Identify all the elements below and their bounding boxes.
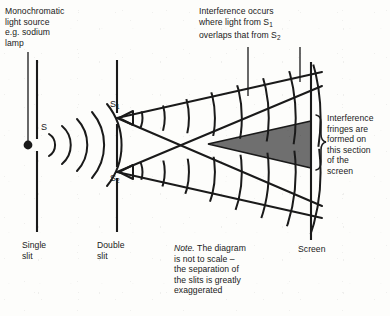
interference-caption-line-3: overlaps that from S2 xyxy=(199,30,281,43)
screen-caption: Screen xyxy=(298,244,326,255)
double-slit-caption-line-1: Double xyxy=(97,240,125,251)
interference-caption: Interference occurs where light from S1 … xyxy=(199,6,281,43)
fringe-caption-line-3: formed on xyxy=(327,134,373,145)
interference-caption-sub-1: 1 xyxy=(269,20,273,27)
single-slit-caption-line-1: Single xyxy=(22,240,46,251)
source-point-label: S xyxy=(41,122,47,133)
interference-caption-line-2: where light from S1 xyxy=(199,17,281,30)
source-caption: Monochromatic light source e.g. sodium l… xyxy=(5,6,64,48)
fringe-section-brace xyxy=(316,115,326,170)
note-caption-line-1-text: The diagram xyxy=(195,243,246,253)
point-source-dot xyxy=(24,141,33,150)
note-caption-line-3: the separation of xyxy=(174,264,246,275)
fringe-caption-line-5: of the xyxy=(327,155,373,166)
note-caption-line-1: Note. The diagram xyxy=(174,243,246,254)
source-caption-line-2: light source xyxy=(5,17,64,28)
double-slit-caption: Double slit xyxy=(97,240,125,261)
diagram-canvas: Monochromatic light source e.g. sodium l… xyxy=(0,0,390,316)
double-slit-caption-line-2: slit xyxy=(97,251,125,262)
slit-s2-label-sub: 2 xyxy=(116,177,120,184)
interference-caption-line-2-text: where light from S xyxy=(199,17,269,27)
single-slit-caption: Single slit xyxy=(22,240,46,261)
fringe-caption-line-1: Interference xyxy=(327,113,373,124)
note-caption-line-2: is not to scale – xyxy=(174,254,246,265)
source-caption-line-4: lamp xyxy=(5,38,64,49)
interference-caption-sub-2: 2 xyxy=(277,33,281,40)
fringe-caption-line-4: this section xyxy=(327,145,373,156)
note-caption-line-5: exaggerated xyxy=(174,285,246,296)
fringe-caption-line-2: fringes are xyxy=(327,124,373,135)
note-keyword: Note. xyxy=(174,243,195,253)
fringe-caption: Interference fringes are formed on this … xyxy=(327,113,373,177)
source-point-label-text: S xyxy=(41,122,47,132)
fringe-caption-line-6: screen xyxy=(327,166,373,177)
interference-caption-line-1: Interference occurs xyxy=(199,6,281,17)
interference-caption-line-3-text: overlaps that from S xyxy=(199,30,277,40)
source-caption-line-3: e.g. sodium xyxy=(5,27,64,38)
slit-s2-label: S2 xyxy=(110,173,120,186)
note-caption-line-4: the slits is greatly xyxy=(174,275,246,286)
single-slit-caption-line-2: slit xyxy=(22,251,46,262)
slit-s1-label: S1 xyxy=(110,99,120,112)
slit-s1-label-sub: 1 xyxy=(116,103,120,110)
source-caption-line-1: Monochromatic xyxy=(5,6,64,17)
note-caption: Note. The diagram is not to scale – the … xyxy=(174,243,246,296)
